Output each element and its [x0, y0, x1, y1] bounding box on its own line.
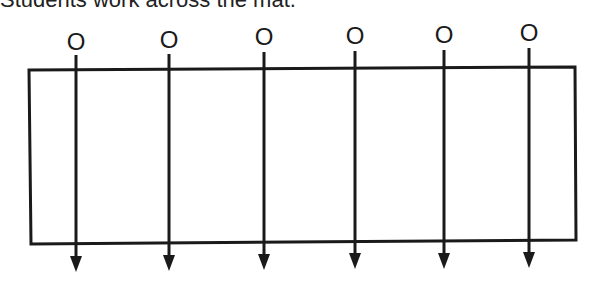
student-marker: O — [520, 19, 539, 46]
student-path: O — [67, 28, 86, 272]
arrow-down-icon — [70, 256, 82, 272]
arrow-down-icon — [523, 252, 535, 268]
student-marker: O — [435, 21, 454, 48]
student-marker: O — [255, 23, 274, 50]
student-path: O — [255, 23, 274, 270]
student-path: O — [520, 19, 539, 268]
student-marker: O — [67, 28, 86, 55]
arrow-down-icon — [438, 253, 450, 269]
mat-diagram: OOOOOO — [0, 0, 593, 286]
student-path: O — [160, 26, 179, 271]
arrow-down-icon — [349, 253, 361, 269]
student-marker: O — [346, 22, 365, 49]
student-marker: O — [160, 26, 179, 53]
arrow-down-icon — [163, 255, 175, 271]
students-group: OOOOOO — [67, 19, 539, 272]
student-path: O — [435, 21, 454, 269]
arrow-down-icon — [258, 254, 270, 270]
student-path: O — [346, 22, 365, 269]
mat-rectangle — [29, 67, 576, 244]
